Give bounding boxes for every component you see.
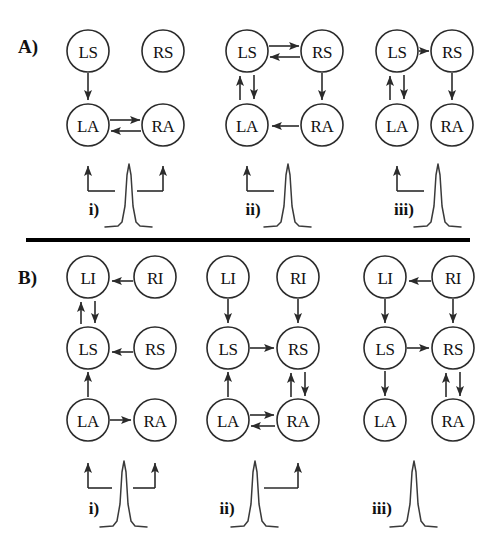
node-label-ri: RI bbox=[147, 269, 164, 288]
panel-a: A) LS RS LA RA i) bbox=[18, 30, 473, 227]
stimulus-pulse-waveform bbox=[264, 164, 311, 227]
node-label-la: LA bbox=[374, 412, 397, 431]
stimulus-pulse-waveform bbox=[231, 461, 278, 527]
node-label-li: LI bbox=[220, 269, 236, 288]
panel-b-column-ii: LI RI LS RS LA RA bbox=[207, 256, 319, 527]
node-label-li: LI bbox=[80, 269, 96, 288]
node-label-la: LA bbox=[386, 117, 409, 136]
node-label-ra: RA bbox=[152, 117, 176, 136]
node-label-la: LA bbox=[236, 117, 259, 136]
node-label-ra: RA bbox=[441, 117, 465, 136]
node-label-ls: LS bbox=[218, 340, 237, 359]
node-label-ls: LS bbox=[375, 340, 394, 359]
node-label-rs: RS bbox=[153, 43, 173, 62]
node-label-la: LA bbox=[217, 412, 240, 431]
node-label-ra: RA bbox=[311, 117, 335, 136]
sublabel-a-ii: ii) bbox=[245, 200, 260, 219]
node-label-la: LA bbox=[77, 117, 100, 136]
sublabel-a-i: i) bbox=[89, 200, 99, 219]
panel-b: B) LI RI LS RS LA RA bbox=[18, 256, 474, 527]
node-label-ra: RA bbox=[287, 412, 311, 431]
panel-a-label: A) bbox=[18, 36, 38, 58]
sublabel-a-iii: iii) bbox=[394, 200, 414, 219]
node-label-rs: RS bbox=[288, 340, 308, 359]
panel-a-column-i: LS RS LA RA i) bbox=[67, 30, 184, 227]
node-label-rs: RS bbox=[145, 340, 165, 359]
sublabel-b-i: i) bbox=[89, 499, 99, 518]
panel-b-column-iii: LI RI LS RS LA RA iii) bbox=[364, 256, 474, 527]
node-label-rs: RS bbox=[312, 43, 332, 62]
stimulus-pulse-waveform bbox=[100, 461, 147, 527]
stimulus-pulse-waveform bbox=[105, 164, 152, 227]
node-label-la: LA bbox=[77, 412, 100, 431]
node-label-ls: LS bbox=[237, 43, 256, 62]
panel-a-column-iii: LS RS LA RA iii) bbox=[376, 30, 473, 227]
sublabel-b-iii: iii) bbox=[372, 499, 392, 518]
stimulus-pulse-waveform bbox=[414, 164, 461, 227]
panel-a-column-ii: LS RS LA RA ii) bbox=[226, 30, 343, 227]
node-label-ra: RA bbox=[144, 412, 168, 431]
panel-b-column-i: LI RI LS RS LA RA bbox=[67, 256, 176, 527]
node-label-rs: RS bbox=[443, 340, 463, 359]
node-label-ls: LS bbox=[78, 340, 97, 359]
node-label-ri: RI bbox=[290, 269, 307, 288]
stimulus-pulse-waveform bbox=[390, 461, 437, 527]
node-label-ra: RA bbox=[442, 412, 466, 431]
sublabel-b-ii: ii) bbox=[219, 499, 234, 518]
node-label-rs: RS bbox=[442, 43, 462, 62]
network-diagram-figure: A) LS RS LA RA i) bbox=[0, 0, 491, 546]
node-label-ls: LS bbox=[387, 43, 406, 62]
node-label-li: LI bbox=[377, 269, 393, 288]
node-label-ls: LS bbox=[78, 43, 97, 62]
node-label-ri: RI bbox=[445, 269, 462, 288]
panel-b-label: B) bbox=[18, 267, 37, 289]
